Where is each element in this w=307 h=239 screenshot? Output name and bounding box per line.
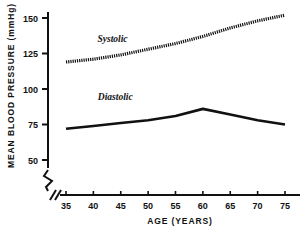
x-tick-label-70: 70 <box>253 201 263 211</box>
x-tick-label-75: 75 <box>280 201 290 211</box>
y-tick-label-50: 50 <box>28 156 38 166</box>
y-axis-break-icon <box>44 170 52 191</box>
x-axis-break-icon <box>50 190 61 200</box>
y-tick-label-100: 100 <box>23 85 38 95</box>
blood-pressure-chart-figure: 5075100125150 354045505560657075 MEAN BL… <box>0 0 307 239</box>
x-tick-label-50: 50 <box>143 201 153 211</box>
x-tick-label-40: 40 <box>88 201 98 211</box>
data-series-group <box>66 15 285 129</box>
y-axis-tick-labels: 5075100125150 <box>23 14 38 166</box>
series-label-systolic: Systolic <box>97 34 128 44</box>
series-annotations: SystolicDiastolic <box>97 34 134 102</box>
y-tick-label-125: 125 <box>23 49 38 59</box>
x-tick-label-35: 35 <box>61 201 71 211</box>
series-label-diastolic: Diastolic <box>97 92 134 102</box>
x-tick-label-45: 45 <box>116 201 126 211</box>
x-tick-label-55: 55 <box>170 201 180 211</box>
x-axis-tick-labels: 354045505560657075 <box>61 201 290 211</box>
chart-canvas: 5075100125150 354045505560657075 MEAN BL… <box>0 0 307 239</box>
x-axis-title: AGE (YEARS) <box>147 216 213 226</box>
series-line-diastolic <box>66 109 285 129</box>
x-tick-label-65: 65 <box>225 201 235 211</box>
y-tick-label-150: 150 <box>23 14 38 24</box>
x-tick-label-60: 60 <box>198 201 208 211</box>
y-axis-title: MEAN BLOOD PRESSURE (mmHg) <box>6 3 16 168</box>
y-tick-label-75: 75 <box>28 120 38 130</box>
